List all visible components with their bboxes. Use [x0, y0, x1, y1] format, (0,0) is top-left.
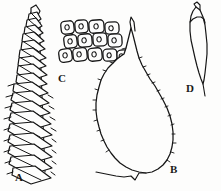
figure-label-d: D [186, 83, 194, 94]
leaf-cell [87, 47, 102, 61]
botanical-plate: A B C D [0, 0, 221, 191]
leaf-cell [74, 19, 88, 33]
leaf-cell [89, 19, 105, 33]
leaf-cell [58, 48, 73, 63]
cell-row-1 [60, 19, 119, 34]
figure-label-b: B [170, 164, 178, 175]
figure-label-c: C [58, 73, 66, 84]
leaf-cell [105, 22, 120, 35]
shoot-lower-leaves [8, 82, 52, 184]
leaf-base-d [203, 84, 205, 96]
figure-label-a: A [15, 172, 23, 183]
figure-c-leaf-cells [58, 19, 128, 62]
leaf-cell [77, 33, 92, 47]
leaf-cell [103, 49, 118, 62]
figure-a-leafy-shoot [4, 5, 56, 184]
leaf-base-b [96, 172, 146, 180]
leaf-cell [72, 47, 87, 61]
leaf-cell [60, 20, 74, 34]
plate-drawing [0, 0, 221, 191]
cell-row-2 [63, 33, 122, 49]
shoot-mid-leaves [16, 25, 47, 90]
leaf-cell [108, 34, 123, 48]
leaf-outline-d [190, 7, 207, 84]
leaf-cell [93, 33, 108, 47]
leaf-cell [63, 34, 77, 48]
